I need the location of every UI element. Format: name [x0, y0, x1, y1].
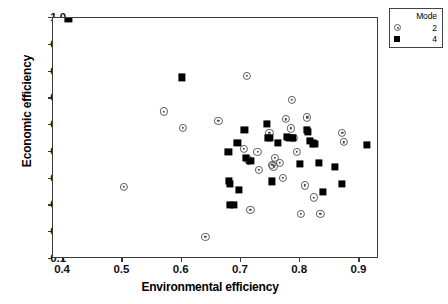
data-point-mode-4	[230, 201, 237, 208]
data-point-mode-2	[303, 113, 311, 121]
data-point-mode-2	[338, 129, 346, 137]
legend-marker-circle-dot-icon	[394, 24, 406, 31]
data-point-mode-4	[65, 18, 72, 22]
data-point-mode-2	[160, 107, 168, 115]
data-point-mode-2	[287, 124, 295, 132]
data-point-mode-4	[266, 134, 273, 141]
legend: Mode 2 4	[389, 8, 443, 48]
data-point-mode-2	[279, 174, 287, 182]
data-point-mode-4	[226, 180, 233, 187]
data-point-mode-4	[179, 74, 186, 81]
data-point-mode-4	[316, 160, 323, 167]
x-axis-tick-label: 0.6	[173, 263, 189, 275]
x-axis-tick-label: 0.9	[351, 263, 367, 275]
data-point-mode-2	[201, 233, 209, 241]
x-axis-title: Environmental efficiency	[0, 280, 420, 294]
data-point-mode-4	[363, 141, 370, 148]
y-axis-title: Economic efficiency	[20, 21, 34, 201]
data-point-mode-2	[276, 159, 284, 167]
legend-marker-filled-square-icon	[394, 36, 406, 42]
data-point-mode-4	[304, 128, 311, 135]
data-point-mode-2	[246, 206, 254, 214]
data-point-mode-2	[288, 96, 296, 104]
x-axis-tick	[358, 258, 359, 262]
x-axis-tick	[181, 258, 182, 262]
data-point-mode-4	[241, 126, 248, 133]
data-point-mode-4	[268, 178, 275, 185]
data-point-mode-2	[253, 148, 261, 156]
data-point-mode-4	[247, 157, 254, 164]
data-point-mode-4	[311, 140, 318, 147]
data-points-layer	[53, 18, 377, 257]
data-point-mode-2	[301, 181, 309, 189]
data-point-mode-2	[214, 116, 222, 124]
legend-title: Mode	[394, 11, 438, 21]
data-point-mode-2	[243, 71, 251, 79]
data-point-mode-4	[225, 149, 232, 156]
legend-label-mode-2: 2	[432, 23, 438, 33]
scatter-chart-figure: Economic efficiency Environmental effici…	[0, 0, 448, 304]
data-point-mode-2	[316, 210, 324, 218]
data-point-mode-2	[179, 124, 187, 132]
data-point-mode-4	[319, 188, 326, 195]
data-point-mode-4	[263, 120, 270, 127]
data-point-mode-2	[297, 210, 305, 218]
x-axis-tick-label: 0.4	[54, 263, 70, 275]
legend-item-mode-2: 2	[394, 22, 438, 33]
data-point-mode-2	[293, 148, 301, 156]
data-point-mode-2	[240, 145, 248, 153]
data-point-mode-4	[331, 164, 338, 171]
data-point-mode-4	[289, 135, 296, 142]
x-axis-tick	[240, 258, 241, 262]
x-axis-tick-label: 0.5	[114, 263, 130, 275]
data-point-mode-2	[310, 193, 318, 201]
plot-area	[52, 17, 378, 258]
x-axis-tick	[299, 258, 300, 262]
data-point-mode-2	[340, 138, 348, 146]
data-point-mode-2	[120, 183, 128, 191]
data-point-mode-4	[339, 180, 346, 187]
data-point-mode-4	[297, 160, 304, 167]
x-axis-tick	[121, 258, 122, 262]
data-point-mode-4	[234, 139, 241, 146]
data-point-mode-2	[282, 115, 290, 123]
data-point-mode-4	[236, 187, 243, 194]
x-axis-tick-label: 0.8	[291, 263, 307, 275]
legend-item-mode-4: 4	[394, 33, 438, 44]
data-point-mode-2	[255, 165, 263, 173]
legend-label-mode-4: 4	[432, 34, 438, 44]
data-point-mode-4	[275, 139, 282, 146]
x-axis-tick-label: 0.7	[232, 263, 248, 275]
